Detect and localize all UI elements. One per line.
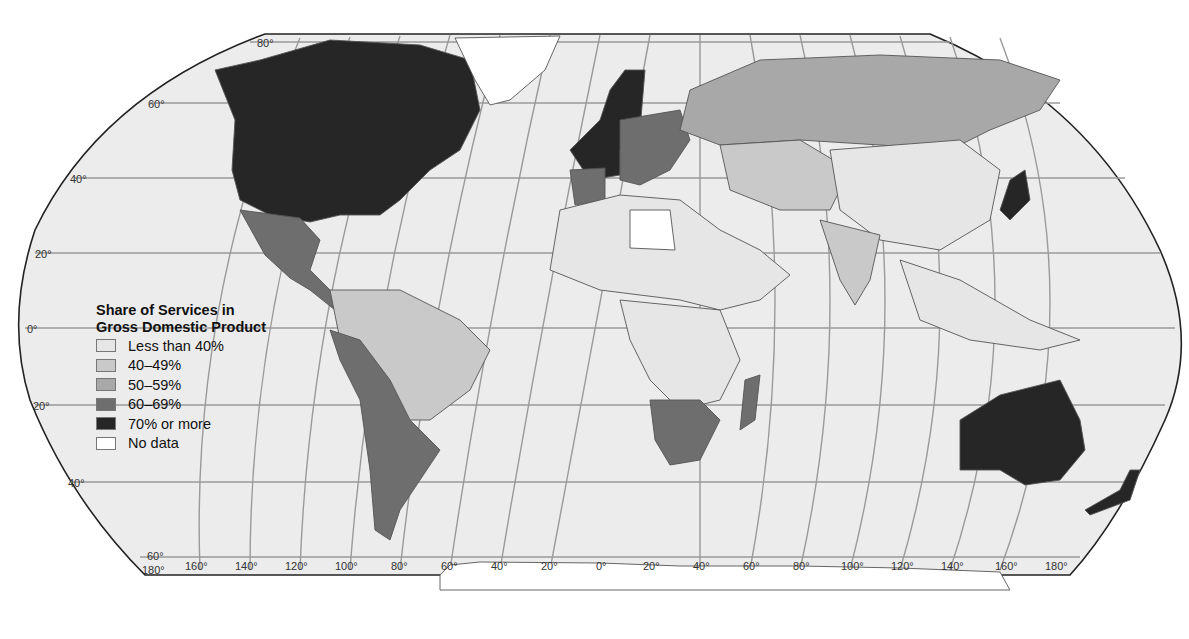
svg-text:20°: 20° xyxy=(33,400,50,412)
svg-text:160°: 160° xyxy=(995,560,1018,572)
legend-swatch xyxy=(96,378,116,391)
svg-text:80°: 80° xyxy=(793,560,810,572)
svg-text:60°: 60° xyxy=(743,560,760,572)
legend-title-line2: Gross Domestic Product xyxy=(96,319,266,336)
svg-text:100°: 100° xyxy=(335,560,358,572)
svg-text:20°: 20° xyxy=(35,248,52,260)
legend-item-70-plus: 70% or more xyxy=(96,414,266,434)
legend-label: No data xyxy=(128,435,179,451)
legend-label: Less than 40% xyxy=(128,338,224,354)
legend-swatch xyxy=(96,437,116,450)
legend-swatch xyxy=(96,359,116,372)
legend-label: 50–59% xyxy=(128,377,181,393)
legend-label: 60–69% xyxy=(128,396,181,412)
svg-text:140°: 140° xyxy=(235,560,258,572)
legend-swatch xyxy=(96,417,116,430)
svg-text:120°: 120° xyxy=(891,560,914,572)
legend-title-line1: Share of Services in xyxy=(96,302,266,319)
svg-text:100°: 100° xyxy=(841,560,864,572)
legend-item-60-69: 60–69% xyxy=(96,395,266,415)
legend-swatch xyxy=(96,339,116,352)
svg-text:60°: 60° xyxy=(148,98,165,110)
svg-text:40°: 40° xyxy=(70,173,87,185)
svg-text:80°: 80° xyxy=(257,37,274,49)
legend-label: 70% or more xyxy=(128,416,211,432)
region-libya xyxy=(630,210,675,250)
svg-text:180°: 180° xyxy=(1045,560,1068,572)
svg-text:0°: 0° xyxy=(596,560,607,572)
svg-text:20°: 20° xyxy=(643,560,660,572)
legend-item-no-data: No data xyxy=(96,434,266,454)
svg-text:60°: 60° xyxy=(147,550,164,562)
svg-text:20°: 20° xyxy=(541,560,558,572)
svg-text:40°: 40° xyxy=(491,560,508,572)
legend-item-40-49: 40–49% xyxy=(96,356,266,376)
legend-item-less-than-40: Less than 40% xyxy=(96,336,266,356)
svg-text:120°: 120° xyxy=(285,560,308,572)
legend: Share of Services in Gross Domestic Prod… xyxy=(96,302,266,453)
svg-text:40°: 40° xyxy=(693,560,710,572)
svg-text:60°: 60° xyxy=(441,560,458,572)
svg-text:180°: 180° xyxy=(142,564,165,576)
legend-label: 40–49% xyxy=(128,357,181,373)
svg-text:0°: 0° xyxy=(27,323,38,335)
svg-text:160°: 160° xyxy=(185,560,208,572)
region-iberia xyxy=(570,168,605,205)
svg-text:80°: 80° xyxy=(391,560,408,572)
svg-text:40°: 40° xyxy=(68,477,85,489)
svg-text:140°: 140° xyxy=(941,560,964,572)
legend-swatch xyxy=(96,398,116,411)
legend-item-50-59: 50–59% xyxy=(96,375,266,395)
